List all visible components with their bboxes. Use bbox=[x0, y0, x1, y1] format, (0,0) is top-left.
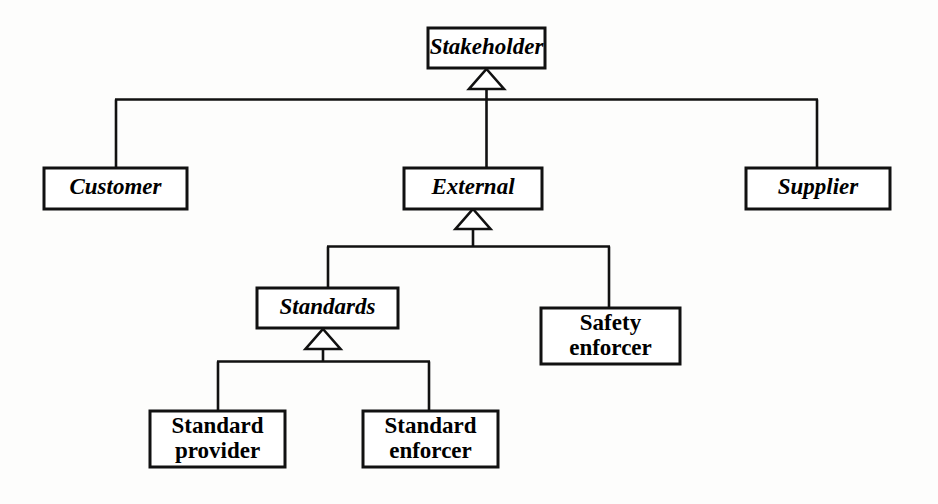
class-box-standard-enforcer[interactable]: Standard enforcer bbox=[363, 411, 498, 467]
class-name-standards: Standards bbox=[280, 294, 376, 319]
class-name-safety-enforcer-line1: Safety bbox=[580, 310, 642, 335]
class-box-supplier[interactable]: Supplier bbox=[746, 168, 890, 209]
class-name-standard-provider-line1: Standard bbox=[171, 413, 263, 438]
generalization-triangle-external bbox=[456, 209, 491, 229]
uml-class-diagram: Stakeholder Customer External Supplier S… bbox=[0, 0, 938, 504]
class-name-standard-provider-line2: provider bbox=[175, 438, 260, 463]
class-box-stakeholder[interactable]: Stakeholder bbox=[428, 28, 545, 68]
class-name-customer: Customer bbox=[69, 174, 162, 199]
diagram-canvas: Stakeholder Customer External Supplier S… bbox=[0, 0, 938, 504]
generalization-stakeholder bbox=[115, 69, 818, 168]
generalization-triangle-stakeholder bbox=[469, 69, 504, 89]
class-name-stakeholder: Stakeholder bbox=[430, 34, 545, 59]
class-name-safety-enforcer-line2: enforcer bbox=[569, 335, 652, 360]
class-box-standards[interactable]: Standards bbox=[257, 288, 398, 328]
generalization-triangle-standards bbox=[306, 329, 341, 349]
generalization-standards bbox=[217, 329, 430, 411]
class-name-external: External bbox=[430, 174, 515, 199]
class-box-standard-provider[interactable]: Standard provider bbox=[150, 411, 285, 467]
class-box-external[interactable]: External bbox=[404, 168, 542, 209]
class-box-safety-enforcer[interactable]: Safety enforcer bbox=[541, 308, 680, 364]
class-name-standard-enforcer-line1: Standard bbox=[384, 413, 476, 438]
class-name-supplier: Supplier bbox=[778, 174, 860, 199]
class-name-standard-enforcer-line2: enforcer bbox=[389, 438, 472, 463]
class-box-customer[interactable]: Customer bbox=[44, 168, 187, 209]
